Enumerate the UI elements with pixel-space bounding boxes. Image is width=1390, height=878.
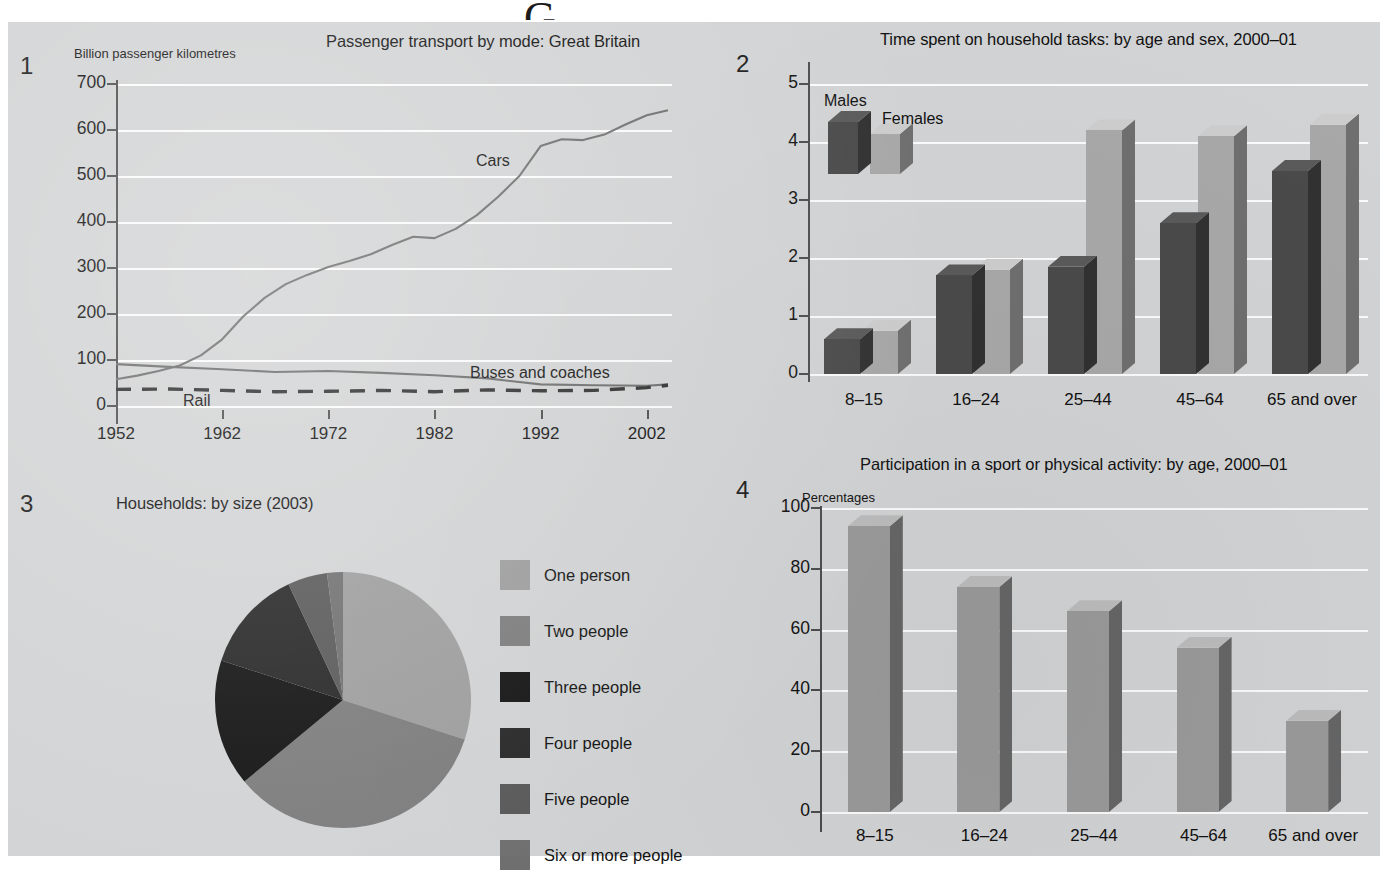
chart-2-bar-female-4-side <box>1346 114 1359 374</box>
chart-3-legend-swatch-1 <box>500 616 530 646</box>
chart-2-bar-male-4-front <box>1272 171 1308 374</box>
chart-2-bar-female-1-side <box>1010 259 1023 374</box>
chart-2-bar-male-1-front <box>936 275 972 374</box>
chart-3-legend-label-4: Five people <box>544 790 629 809</box>
chart-2-legend-male-swatch-side <box>858 111 871 174</box>
chart-2-ytick-label: 4 <box>760 130 798 151</box>
chart-2-ytick-mark <box>799 199 808 201</box>
chart-4-bar-2-front <box>1067 611 1109 812</box>
chart-4-bar-4-front <box>1286 721 1328 812</box>
chart-4-bar-2-side <box>1109 600 1122 812</box>
chart-4-y-axis <box>820 506 822 832</box>
chart-2-legend-label-females: Females <box>882 110 943 128</box>
chart-2-bar-male-4-side <box>1308 160 1321 374</box>
chart-3-households-by-size: 3 Households: by size (2003) One personT… <box>8 452 720 856</box>
chart-1-label-cars: Cars <box>476 152 510 170</box>
chart-4-ytick-mark <box>811 811 820 813</box>
chart-4-ytick-mark <box>811 750 820 752</box>
chart-4-ytick-label: 40 <box>748 678 810 699</box>
chart-2-ytick-label: 3 <box>760 188 798 209</box>
chart-1-passenger-transport: 1 Passenger transport by mode: Great Bri… <box>8 22 708 442</box>
chart-4-bar-1-front <box>957 587 999 812</box>
chart-3-legend-swatch-0 <box>500 560 530 590</box>
chart-2-bar-male-2-front <box>1048 267 1084 374</box>
chart-2-bar-female-2-side <box>1122 119 1135 374</box>
chart-2-ytick-label: 2 <box>760 246 798 267</box>
chart-2-bar-female-3-side <box>1234 125 1247 374</box>
chart-4-ytick-mark <box>811 689 820 691</box>
chart-3-legend-swatch-3 <box>500 728 530 758</box>
chart-4-bar-3-front <box>1177 648 1219 812</box>
chart-1-series-rail <box>116 385 668 391</box>
chart-4-bar-4-side <box>1328 710 1341 812</box>
chart-3-legend-swatch-2 <box>500 672 530 702</box>
chart-4-ytick-mark <box>811 568 820 570</box>
chart-2-bar-male-1-side <box>972 264 985 374</box>
chart-1-series-cars <box>116 110 668 379</box>
chart-2-ytick-mark <box>799 315 808 317</box>
chart-4-xtick-label: 65 and over <box>1243 826 1383 846</box>
chart-3-legend-label-5: Six or more people <box>544 846 683 865</box>
chart-2-ytick-label: 5 <box>760 72 798 93</box>
chart-2-bar-male-3-front <box>1160 223 1196 374</box>
chart-4-ytick-label: 100 <box>748 496 810 517</box>
chart-4-ytick-label: 60 <box>748 618 810 639</box>
chart-2-legend-label-males: Males <box>824 92 867 110</box>
chart-2-ytick-label: 0 <box>760 362 798 383</box>
chart-3-plot: One personTwo peopleThree peopleFour peo… <box>8 452 720 856</box>
chart-2-household-tasks: 2 Time spent on household tasks: by age … <box>720 22 1380 442</box>
chart-2-ytick-label: 1 <box>760 304 798 325</box>
chart-1-plot: 0100200300400500600700195219621972198219… <box>8 22 708 442</box>
chart-2-ytick-mark <box>799 373 808 375</box>
chart-1-label-rail: Rail <box>183 392 211 410</box>
chart-4-ytick-label: 20 <box>748 739 810 760</box>
chart-2-bar-male-3-side <box>1196 212 1209 374</box>
chart-2-gridline <box>808 374 1368 376</box>
chart-2-bar-male-0-front <box>824 339 860 374</box>
chart-2-bar-male-2-side <box>1084 256 1097 374</box>
chart-2-plot: 0123458–1516–2425–4445–6465 and overMale… <box>720 22 1380 442</box>
cut-off-page-heading: G <box>524 0 556 20</box>
chart-2-ytick-mark <box>799 83 808 85</box>
chart-4-ytick-mark <box>811 629 820 631</box>
chart-4-gridline <box>820 812 1368 814</box>
chart-2-ytick-mark <box>799 257 808 259</box>
chart-4-bar-3-side <box>1219 637 1232 812</box>
chart-4-gridline <box>820 508 1368 510</box>
chart-4-bar-1-side <box>999 576 1012 812</box>
chart-1-label-buses: Buses and coaches <box>470 364 610 382</box>
chart-4-ytick-label: 80 <box>748 557 810 578</box>
chart-2-xtick-label: 65 and over <box>1242 390 1382 410</box>
chart-3-legend-swatch-4 <box>500 784 530 814</box>
chart-4-ytick-label: 0 <box>748 800 810 821</box>
chart-3-legend-label-1: Two people <box>544 622 628 641</box>
chart-4-bar-0-front <box>848 526 890 812</box>
chart-3-legend-label-3: Four people <box>544 734 632 753</box>
figure-panel: G 1 Passenger transport by mode: Great B… <box>8 22 1380 856</box>
chart-4-bar-0-side <box>890 515 903 812</box>
chart-2-y-axis <box>808 62 810 382</box>
chart-4-ytick-mark <box>811 507 820 509</box>
chart-4-sport-participation: 4 Participation in a sport or physical a… <box>720 452 1380 856</box>
chart-3-legend-label-2: Three people <box>544 678 641 697</box>
chart-4-plot: 0204060801008–1516–2425–4445–6465 and ov… <box>720 452 1380 856</box>
chart-3-legend-label-0: One person <box>544 566 630 585</box>
chart-2-ytick-mark <box>799 141 808 143</box>
chart-2-legend-male-swatch-front <box>828 122 858 174</box>
chart-3-legend-swatch-5 <box>500 840 530 870</box>
chart-2-gridline <box>808 84 1368 86</box>
chart-2-legend-female-swatch-front <box>870 134 900 174</box>
